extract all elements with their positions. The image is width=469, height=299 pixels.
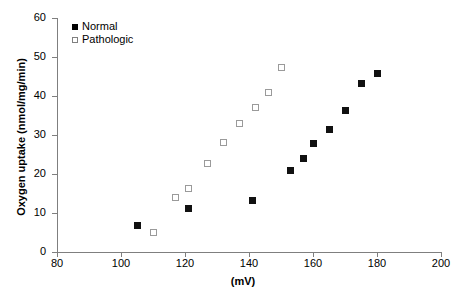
data-point-normal <box>310 140 317 147</box>
data-point-normal <box>358 80 365 87</box>
data-point-pathologic <box>150 229 157 236</box>
chart-legend: Normal Pathologic <box>72 20 133 46</box>
legend-entry-normal: Normal <box>72 20 133 33</box>
legend-entry-pathologic: Pathologic <box>72 33 133 46</box>
x-tick-label: 200 <box>421 258 461 269</box>
x-tick-label: 140 <box>229 258 269 269</box>
x-tick-label: 120 <box>165 258 205 269</box>
data-point-normal <box>249 197 256 204</box>
data-point-pathologic <box>265 89 272 96</box>
open-square-icon <box>72 37 78 43</box>
x-tick-label: 180 <box>357 258 397 269</box>
data-point-normal <box>185 205 192 212</box>
x-tick-label: 160 <box>293 258 333 269</box>
x-axis-title: (mV) <box>203 275 283 287</box>
scatter-chart: 0102030405060 80100120140160180200 Oxyge… <box>0 0 469 299</box>
data-point-normal <box>134 222 141 229</box>
y-tick-label: 60 <box>16 12 46 23</box>
y-tick <box>52 213 57 214</box>
y-tick <box>52 57 57 58</box>
data-point-pathologic <box>220 139 227 146</box>
data-point-normal <box>326 126 333 133</box>
y-tick <box>52 96 57 97</box>
data-point-normal <box>374 70 381 77</box>
data-point-pathologic <box>204 160 211 167</box>
data-point-normal <box>300 155 307 162</box>
y-axis-title: Oxygen uptake (nmol/mg/min) <box>15 37 27 237</box>
y-tick <box>52 174 57 175</box>
data-point-normal <box>287 167 294 174</box>
y-tick-label: 0 <box>16 246 46 257</box>
y-tick <box>52 135 57 136</box>
data-point-pathologic <box>252 104 259 111</box>
data-point-pathologic <box>278 64 285 71</box>
data-point-pathologic <box>172 194 179 201</box>
x-tick-label: 100 <box>101 258 141 269</box>
legend-label-normal: Normal <box>82 20 117 33</box>
y-axis-line <box>57 18 58 252</box>
x-tick-label: 80 <box>37 258 77 269</box>
data-point-pathologic <box>185 185 192 192</box>
data-point-pathologic <box>236 120 243 127</box>
filled-square-icon <box>72 24 78 30</box>
data-point-normal <box>342 107 349 114</box>
legend-label-pathologic: Pathologic <box>82 33 133 46</box>
y-tick <box>52 18 57 19</box>
